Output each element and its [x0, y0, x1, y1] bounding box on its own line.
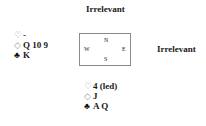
south-diamonds-cards: J — [93, 91, 98, 101]
compass-north: N — [104, 37, 108, 43]
west-hearts-row: ♡ - — [14, 30, 48, 40]
south-hearts-cards: 4 (led) — [93, 81, 117, 91]
compass-table: N W E S — [79, 33, 131, 66]
west-diamonds-cards: Q 10 9 — [23, 40, 48, 50]
compass-west: W — [84, 46, 90, 52]
east-hand-label: Irrelevant — [157, 44, 196, 54]
compass-east: E — [122, 46, 126, 52]
compass-south: S — [104, 56, 107, 62]
south-hand: ♡ 4 (led) ◇ J ♣ A Q — [84, 81, 117, 111]
south-clubs-cards: A Q — [93, 101, 108, 111]
north-hand-label: Irrelevant — [86, 4, 125, 14]
heart-icon: ♡ — [84, 81, 93, 91]
heart-icon: ♡ — [14, 30, 23, 40]
club-icon: ♣ — [84, 101, 93, 111]
diamond-icon: ◇ — [84, 91, 93, 101]
south-hearts-row: ♡ 4 (led) — [84, 81, 117, 91]
club-icon: ♣ — [14, 50, 23, 60]
south-clubs-row: ♣ A Q — [84, 101, 117, 111]
west-hearts-cards: - — [23, 30, 26, 40]
west-clubs-row: ♣ K — [14, 50, 48, 60]
west-diamonds-row: ◇ Q 10 9 — [14, 40, 48, 50]
diamond-icon: ◇ — [14, 40, 23, 50]
south-diamonds-row: ◇ J — [84, 91, 117, 101]
west-clubs-cards: K — [23, 50, 30, 60]
west-hand: ♡ - ◇ Q 10 9 ♣ K — [14, 30, 48, 60]
